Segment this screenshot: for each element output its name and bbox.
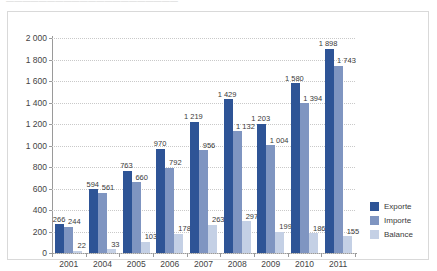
bar-group-bars: 1 2031 004199 (257, 38, 284, 253)
chart-screenshot: ————————————————————— 02004006008001 000… (0, 0, 437, 271)
bar-exporte: 1 898 (325, 49, 334, 253)
bar-value-label: 763 (120, 162, 133, 170)
bar-importe: 1 743 (334, 66, 343, 253)
x-tick-mark (52, 253, 53, 257)
legend-swatch-icon (370, 216, 379, 225)
legend-item-importe[interactable]: Importe (370, 216, 413, 225)
x-tick-mark (119, 253, 120, 257)
bar-group-bars: 970792178 (156, 38, 183, 253)
bar-exporte: 970 (156, 149, 165, 253)
chart-legend: ExporteImporteBalance (370, 202, 413, 239)
bar-value-label: 244 (68, 218, 81, 226)
bar-group-bars: 763660103 (123, 38, 150, 253)
bar-group-bars: 26624422 (55, 38, 82, 253)
x-axis-tick-label: 2008 (228, 259, 247, 269)
bar-group: 1 5801 394186 (291, 38, 318, 253)
x-axis-tick-label: 2007 (194, 259, 213, 269)
bar-exporte: 1 203 (257, 124, 266, 253)
bar-value-label: 186 (313, 225, 326, 233)
plot-area: 02004006008001 0001 2001 4001 6001 8002 … (52, 38, 355, 253)
bar-value-label: 33 (111, 241, 119, 249)
bar-value-label: 1 743 (337, 57, 356, 65)
bar-value-label: 103 (145, 233, 158, 241)
y-tick-mark (49, 189, 52, 190)
bar-group: 26624422 (55, 38, 82, 253)
bar-value-label: 1 132 (236, 123, 255, 131)
bar-value-label: 1 004 (270, 137, 289, 145)
bar-group-bars: 1 8981 743155 (325, 38, 352, 253)
x-axis-tick-label: 2005 (127, 259, 146, 269)
bar-balance: 186 (309, 233, 318, 253)
x-axis-tick-label: 2009 (261, 259, 280, 269)
bar-importe: 660 (132, 182, 141, 253)
figure-frame: 02004006008001 0001 2001 4001 6001 8002 … (7, 11, 429, 260)
legend-label: Balance (384, 230, 413, 239)
legend-label: Exporte (384, 202, 412, 211)
legend-swatch-icon (370, 230, 379, 239)
y-tick-mark (49, 81, 52, 82)
y-tick-mark (49, 167, 52, 168)
bar-importe: 561 (98, 193, 107, 253)
bar-value-label: 178 (178, 225, 191, 233)
bar-value-label: 1 898 (319, 40, 338, 48)
y-axis-tick-label: 1 800 (26, 55, 47, 65)
y-axis-tick-label: 400 (33, 205, 47, 215)
y-axis-tick-label: 800 (33, 162, 47, 172)
bar-value-label: 1 219 (184, 113, 203, 121)
bar-group: 763660103 (123, 38, 150, 253)
x-tick-mark (187, 253, 188, 257)
gridline (52, 253, 355, 254)
y-axis-tick-label: 600 (33, 184, 47, 194)
x-tick-mark (355, 253, 356, 257)
bar-value-label: 1 394 (303, 95, 322, 103)
bar-balance: 155 (343, 236, 352, 253)
y-axis-tick-label: 200 (33, 227, 47, 237)
y-tick-mark (49, 210, 52, 211)
bar-importe: 956 (199, 150, 208, 253)
bar-balance: 178 (174, 234, 183, 253)
y-tick-mark (49, 103, 52, 104)
truncated-caption: ————————————————————— (0, 0, 437, 9)
x-axis-tick-label: 2011 (329, 259, 347, 269)
bar-group-bars: 59456133 (89, 38, 116, 253)
bar-group: 1 219956263 (190, 38, 217, 253)
bar-importe: 1 394 (300, 103, 309, 253)
bar-group: 59456133 (89, 38, 116, 253)
bar-exporte: 1 219 (190, 122, 199, 253)
bar-importe: 792 (165, 168, 174, 253)
bar-group: 1 4291 132297 (224, 38, 251, 253)
legend-item-balance[interactable]: Balance (370, 230, 413, 239)
legend-label: Importe (384, 216, 411, 225)
y-axis-tick-label: 1 600 (26, 76, 47, 86)
bar-group: 1 2031 004199 (257, 38, 284, 253)
bar-value-label: 297 (246, 213, 259, 221)
y-axis-tick-label: 1 000 (26, 141, 47, 151)
bar-group: 1 8981 743155 (325, 38, 352, 253)
bar-group: 970792178 (156, 38, 183, 253)
y-tick-mark (49, 124, 52, 125)
x-axis-tick-label: 2006 (160, 259, 179, 269)
bar-balance: 33 (107, 249, 116, 253)
bar-exporte: 266 (55, 224, 64, 253)
bar-value-label: 970 (154, 140, 167, 148)
bar-value-label: 1 429 (218, 91, 237, 99)
bar-importe: 244 (64, 227, 73, 253)
x-axis-tick-label: 2001 (59, 259, 78, 269)
bar-value-label: 1 580 (285, 75, 304, 83)
y-axis-tick-label: 1 400 (26, 98, 47, 108)
legend-item-exporte[interactable]: Exporte (370, 202, 413, 211)
y-axis-tick-label: 0 (42, 248, 47, 258)
legend-swatch-icon (370, 202, 379, 211)
bar-value-label: 263 (212, 216, 225, 224)
x-tick-mark (321, 253, 322, 257)
x-tick-mark (153, 253, 154, 257)
bar-exporte: 594 (89, 189, 98, 253)
bar-balance: 297 (242, 221, 251, 253)
x-axis-tick-label: 2010 (295, 259, 314, 269)
x-tick-mark (220, 253, 221, 257)
bar-importe: 1 132 (233, 131, 242, 253)
caption-text: ————————————————————— (6, 0, 178, 5)
bar-value-label: 1 203 (251, 115, 270, 123)
y-axis-tick-label: 2 000 (26, 33, 47, 43)
bar-exporte: 1 429 (224, 99, 233, 253)
